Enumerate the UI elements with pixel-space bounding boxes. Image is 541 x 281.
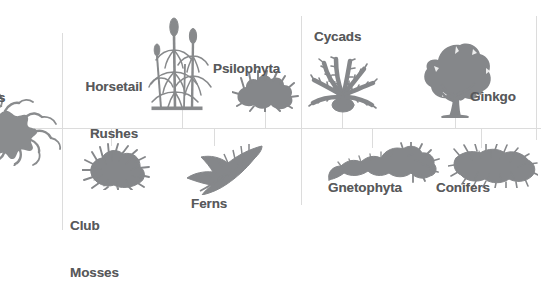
psilophyta-label: Psilophyta <box>213 61 280 76</box>
ginkgo-label: Ginkgo <box>470 89 516 104</box>
horsetail-rushes-label-line1: Horsetail <box>80 79 148 95</box>
club-mosses-label-line1: Club <box>70 218 119 234</box>
conifers-label: Conifers <box>436 180 490 195</box>
branching-thallus-silhouette <box>0 88 62 166</box>
club-moss-silhouette <box>82 142 150 190</box>
cycad-silhouette <box>307 45 379 113</box>
ginkgo-tree-silhouette <box>418 40 496 118</box>
club-mosses-label-line2: Mosses <box>70 265 119 281</box>
liverworts-label: s <box>0 90 5 105</box>
horsetail-rushes-label-line2: Rushes <box>80 126 148 142</box>
ferns-label: Ferns <box>191 196 227 211</box>
club-mosses-label: Club Mosses <box>70 187 119 281</box>
cycads-label: Cycads <box>314 29 361 44</box>
fern-frond-silhouette <box>180 143 264 195</box>
horsetail-rush-silhouette <box>148 16 218 112</box>
psilophyta-silhouette <box>232 70 300 112</box>
gnetophyta-label: Gnetophyta <box>328 180 402 195</box>
